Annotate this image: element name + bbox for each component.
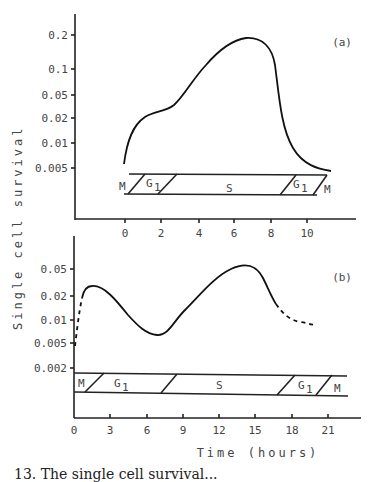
x-axis-label: Time (hours) [197,446,320,460]
panel-a: 0.2 0.1 0.05 0.02 0.01 0.005 0 2 4 6 8 1… [35,14,356,240]
svg-text:0.1: 0.1 [48,63,68,76]
panel-b-label: (b) [332,271,352,284]
svg-text:6: 6 [231,227,238,240]
svg-text:21: 21 [321,424,334,437]
svg-text:15: 15 [248,424,261,437]
svg-text:1: 1 [154,181,161,194]
svg-text:8: 8 [268,227,275,240]
svg-text:9: 9 [180,424,187,437]
svg-text:0.05: 0.05 [41,263,68,276]
svg-text:0.002: 0.002 [34,362,67,375]
svg-text:0.05: 0.05 [42,89,69,102]
svg-text:2: 2 [158,227,165,240]
y-axis-label: Single cell survival [11,126,25,331]
svg-text:S: S [216,379,223,392]
svg-text:4: 4 [196,227,203,240]
svg-text:G: G [293,178,300,191]
svg-text:0.02: 0.02 [42,112,69,125]
panel-b-curve-dashed-start [75,298,82,346]
panel-a-survival-curve [124,38,331,171]
panel-b-cycle-band: M G 1 S G 1 M [74,373,348,396]
svg-text:0: 0 [71,424,78,437]
svg-text:M: M [334,382,341,395]
svg-text:12: 12 [212,424,225,437]
svg-text:0.01: 0.01 [42,137,69,150]
panel-b: 0.05 0.02 0.01 0.005 0.002 0 3 6 9 12 15… [34,236,361,437]
svg-text:1: 1 [301,182,308,195]
svg-text:G: G [146,177,153,190]
svg-text:1: 1 [306,383,313,396]
svg-text:S: S [226,182,233,195]
panel-b-curve-dashed-end [276,304,314,325]
svg-text:M: M [324,183,331,196]
svg-text:0.01: 0.01 [41,314,68,327]
svg-text:M: M [78,377,85,390]
svg-text:18: 18 [285,424,298,437]
panel-b-survival-curve [82,265,276,335]
svg-text:G: G [298,379,305,392]
svg-text:6: 6 [144,424,151,437]
panel-a-cycle-band: M G 1 S G 1 M [119,174,331,196]
panel-a-label: (a) [332,36,352,49]
svg-text:0.005: 0.005 [35,162,68,175]
svg-text:10: 10 [300,227,313,240]
svg-text:M: M [119,180,126,193]
panel-a-x-ticks: 0 2 4 6 8 10 [122,219,314,240]
svg-text:G: G [114,377,121,390]
svg-text:0.2: 0.2 [48,29,68,42]
panel-b-y-ticks: 0.05 0.02 0.01 0.005 0.002 [34,263,74,375]
panel-a-y-ticks: 0.2 0.1 0.05 0.02 0.01 0.005 [35,29,75,175]
svg-text:0.005: 0.005 [34,337,67,350]
svg-text:1: 1 [122,381,129,394]
figure-caption: 13. The single cell survival... [14,466,218,482]
svg-text:3: 3 [107,424,114,437]
svg-text:0.02: 0.02 [41,290,68,303]
svg-text:0: 0 [122,227,129,240]
